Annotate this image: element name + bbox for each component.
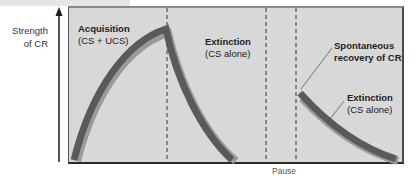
phase-label-extinction-1: Extinction (CS alone) — [205, 36, 251, 60]
phase-title: Spontaneous — [334, 40, 402, 52]
phase-title: Extinction — [347, 92, 393, 104]
phase-subtitle: (CS alone) — [347, 104, 393, 116]
phase-label-extinction-2: Extinction (CS alone) — [347, 92, 393, 116]
phase-title: Extinction — [205, 36, 251, 48]
y-axis-arrow-icon — [56, 7, 63, 162]
phase-subtitle: (CS + UCS) — [78, 35, 130, 47]
phase-label-spontaneous-recovery: Spontaneous recovery of CR — [334, 40, 402, 64]
pause-label: Pause — [272, 166, 296, 176]
phase-label-acquisition: Acquisition (CS + UCS) — [78, 23, 130, 47]
phase-subtitle: (CS alone) — [205, 48, 251, 60]
phase-subtitle: recovery of CR — [334, 52, 402, 64]
phase-title: Acquisition — [78, 23, 130, 35]
